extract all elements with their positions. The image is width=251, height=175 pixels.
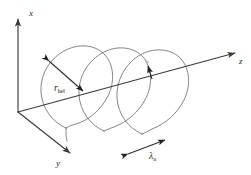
figure-root: x y z rhel λu [0,0,251,175]
helix-loop-1 [41,46,113,128]
helix-loop-2 [79,48,151,131]
helix-tail [66,128,67,141]
lambda-u-arrow [128,140,165,154]
lambda-u-label-subscript: u [153,156,156,162]
y-axis-label: y [55,158,60,168]
z-axis-label: z [238,56,243,66]
x-axis-label: x [28,8,33,18]
helix-loop-3 [117,50,189,134]
y-axis-line [18,112,70,153]
r-hel-label: rhel [54,83,65,94]
helix-undulator-diagram: x y z rhel λu [0,0,251,175]
center-dot [146,61,149,64]
r-hel-label-subscript: hel [58,88,66,94]
axes-group: x y z [18,8,243,168]
annotation-group: rhel λu [49,61,165,163]
lambda-u-label: λu [148,151,156,162]
